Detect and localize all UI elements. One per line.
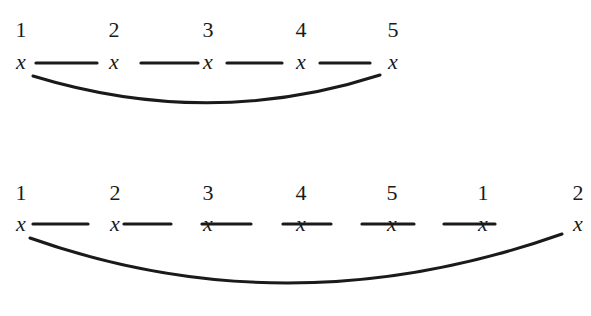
node-variable: x bbox=[386, 211, 397, 236]
top-chain: 1x2x3x4x5x bbox=[15, 17, 398, 103]
node-index-label: 2 bbox=[110, 180, 121, 205]
node-index-label: 3 bbox=[203, 180, 214, 205]
node-variable: x bbox=[477, 211, 488, 236]
node-index-label: 2 bbox=[109, 17, 120, 42]
node-variable: x bbox=[109, 211, 120, 236]
bottom-chain: 1x2x3x4x5x1x2x bbox=[15, 180, 583, 283]
node-variable: x bbox=[202, 49, 213, 74]
node-variable: x bbox=[15, 49, 26, 74]
node-index-label: 1 bbox=[16, 17, 27, 42]
connecting-arc bbox=[33, 75, 380, 103]
node-index-label: 3 bbox=[203, 17, 214, 42]
connecting-arc bbox=[30, 234, 562, 283]
node-variable: x bbox=[572, 211, 583, 236]
node-index-label: 1 bbox=[478, 180, 489, 205]
chain-diagram: 1x2x3x4x5x1x2x3x4x5x1x2x bbox=[0, 0, 591, 316]
node-index-label: 5 bbox=[388, 17, 399, 42]
node-index-label: 4 bbox=[296, 17, 307, 42]
node-variable: x bbox=[108, 49, 119, 74]
diagram-canvas: 1x2x3x4x5x1x2x3x4x5x1x2x bbox=[0, 0, 591, 316]
node-index-label: 5 bbox=[387, 180, 398, 205]
node-variable: x bbox=[202, 211, 213, 236]
node-variable: x bbox=[15, 211, 26, 236]
node-variable: x bbox=[387, 49, 398, 74]
node-index-label: 1 bbox=[16, 180, 27, 205]
node-index-label: 2 bbox=[573, 180, 584, 205]
node-variable: x bbox=[295, 211, 306, 236]
node-variable: x bbox=[295, 49, 306, 74]
node-index-label: 4 bbox=[296, 180, 307, 205]
